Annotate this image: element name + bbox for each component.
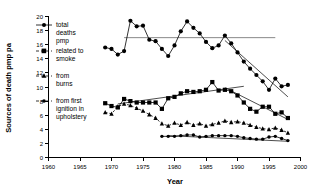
- data-point: [166, 54, 170, 58]
- legend-label-smoke-line2: smoke: [56, 55, 76, 62]
- y-tick-10: 10: [36, 85, 43, 91]
- data-point: [154, 100, 158, 104]
- legend-label-smoke-line1: related to: [56, 47, 84, 54]
- x-tick-1980: 1980: [168, 164, 182, 170]
- y-tick-6: 6: [40, 113, 44, 119]
- data-point: [235, 50, 239, 54]
- data-point: [248, 67, 252, 71]
- series-0: [103, 19, 290, 92]
- data-point: [210, 46, 214, 50]
- y-tick-0: 0: [40, 155, 44, 161]
- legend-label-upholstery-line2: ignition in: [56, 105, 84, 113]
- data-point: [147, 100, 151, 104]
- data-point: [153, 116, 157, 120]
- data-point: [235, 119, 239, 123]
- data-point: [254, 110, 258, 114]
- data-point: [141, 100, 145, 104]
- data-point: [185, 19, 189, 23]
- series-1: [103, 80, 290, 120]
- x-axis-ticks: 1960 1965 1970 1975 1980 1985 1990 1995 …: [42, 158, 308, 171]
- legend-label-burns-line1: from: [56, 72, 70, 79]
- data-point: [135, 106, 139, 110]
- data-point: [280, 137, 283, 140]
- legend-label-total-deaths-line1: total: [56, 21, 69, 28]
- data-point: [147, 38, 151, 42]
- data-point: [154, 39, 158, 43]
- total-decline-trend: [225, 40, 288, 96]
- data-point: [242, 100, 246, 104]
- data-point: [122, 97, 126, 101]
- data-point: [179, 29, 183, 33]
- data-point: [286, 116, 290, 120]
- data-point: [147, 112, 151, 116]
- data-point: [267, 105, 271, 109]
- y-axis-ticks: 20 18 16 14 12 10 8 6 4 2 0: [36, 14, 48, 161]
- data-point: [109, 47, 113, 51]
- data-point: [192, 133, 195, 136]
- x-tick-2000: 2000: [294, 164, 308, 170]
- x-tick-1970: 1970: [105, 164, 119, 170]
- y-axis-title: Sources of death pmp pa: [4, 42, 13, 132]
- data-point: [217, 88, 221, 92]
- legend-label-total-deaths-line3: pmp: [56, 37, 69, 45]
- data-point: [286, 83, 290, 87]
- data-point: [217, 43, 221, 47]
- data-point: [172, 95, 176, 99]
- data-point: [217, 134, 220, 137]
- data-point: [160, 107, 164, 111]
- data-point: [160, 135, 163, 138]
- line-chart: Sources of death pmp pa 20 18 16 14 12 1…: [0, 0, 314, 192]
- data-point: [274, 135, 277, 138]
- legend-entry-upholstery[interactable]: from first ignition in upholstery: [36, 97, 87, 121]
- series-3: [160, 133, 289, 142]
- data-point: [179, 134, 182, 137]
- data-point: [185, 120, 189, 124]
- legend-entry-related-to-smoke[interactable]: related to smoke: [36, 47, 84, 62]
- y-tick-20: 20: [36, 14, 43, 20]
- data-point: [172, 43, 176, 47]
- data-point: [280, 110, 284, 114]
- smoke-decline-trend: [225, 88, 288, 120]
- x-tick-1975: 1975: [136, 164, 150, 170]
- data-point: [141, 24, 145, 28]
- legend-label-burns-line2: burns: [56, 80, 73, 87]
- plot-data-layer: [103, 19, 290, 143]
- data-point: [211, 134, 214, 137]
- data-point: [223, 118, 227, 122]
- series-line: [105, 82, 288, 118]
- data-point: [261, 79, 265, 83]
- data-point: [280, 84, 284, 88]
- chart-legend: total deaths pmp related to smoke from b…: [36, 21, 87, 121]
- data-point: [122, 102, 126, 106]
- data-point: [286, 139, 289, 142]
- x-tick-1960: 1960: [42, 164, 56, 170]
- data-point: [242, 121, 246, 125]
- data-point: [273, 125, 277, 129]
- data-point: [223, 33, 227, 37]
- data-point: [109, 104, 113, 108]
- data-point: [204, 123, 208, 127]
- data-point: [173, 135, 176, 138]
- data-point: [229, 120, 233, 124]
- data-point: [223, 134, 226, 137]
- x-tick-1985: 1985: [199, 164, 213, 170]
- data-point: [172, 121, 176, 125]
- legend-label-total-deaths-line2: deaths: [56, 29, 77, 36]
- x-tick-1990: 1990: [231, 164, 245, 170]
- data-point: [116, 52, 120, 56]
- data-point: [122, 49, 126, 53]
- data-point: [230, 134, 233, 137]
- data-point: [191, 123, 195, 127]
- data-point: [128, 19, 132, 23]
- data-point: [185, 89, 189, 93]
- data-point: [204, 40, 208, 44]
- data-point: [167, 135, 170, 138]
- data-point: [160, 47, 164, 51]
- legend-label-upholstery-line3: upholstery: [56, 113, 87, 121]
- data-point: [210, 80, 214, 84]
- data-point: [216, 121, 220, 125]
- y-tick-14: 14: [36, 56, 43, 62]
- data-point: [248, 107, 252, 111]
- data-point: [267, 88, 271, 92]
- x-axis-title: Year: [167, 177, 183, 186]
